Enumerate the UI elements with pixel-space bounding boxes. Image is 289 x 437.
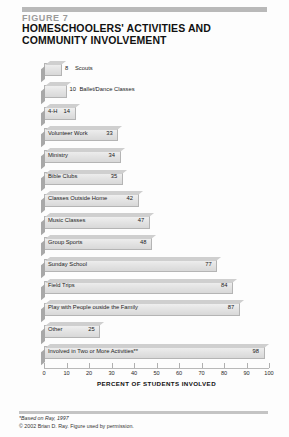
bar-label: Classes Outside Home [48,195,107,201]
x-axis-tick [269,363,270,368]
x-axis-tick-label: 30 [108,370,114,376]
bar-row: 4-H14 [44,104,269,126]
x-axis-tick-label: 0 [42,370,45,376]
bar-label: Music Classes [48,217,85,223]
x-axis-tick-label: 60 [176,370,182,376]
x-axis-tick-label: 80 [221,370,227,376]
x-axis-tick [202,363,203,368]
bar [44,63,62,76]
bar-row: Ministry34 [44,147,269,169]
x-axis-tick-label: 90 [243,370,249,376]
bar-row: Play with People ouside the Family87 [44,300,269,322]
bar-value: 84 [221,282,227,288]
bar-label: Ballet/Dance Classes [80,86,135,92]
bar-label: Other [48,326,63,332]
bar-row: Group Sports48 [44,234,269,256]
bar-label: 4-H [48,108,57,114]
bar-value: 77 [205,261,211,267]
bar-label: Bible Clubs [48,173,77,179]
bar-row: Bible Clubs35 [44,169,269,191]
bar-value: 34 [109,152,115,158]
x-axis-line [44,368,269,369]
x-axis-tick [224,363,225,368]
x-axis-tick [44,363,45,368]
bar-label: Play with People ouside the Family [48,304,138,310]
bar-row: Music Classes47 [44,213,269,235]
x-axis-tick [112,363,113,368]
bar [44,85,67,98]
bar-row: Classes Outside Home42 [44,191,269,213]
bar-value: 98 [253,348,259,354]
figure-title: HOMESCHOOLERS' ACTIVITIES AND COMMUNITY … [22,23,272,46]
x-axis-tick [67,363,68,368]
x-axis-tick [247,363,248,368]
bar-label: Ministry [48,152,68,158]
bar-row: Sunday School77 [44,256,269,278]
bar-value: 25 [88,326,94,332]
x-axis-tick-label: 50 [153,370,159,376]
x-axis-tick-label: 20 [86,370,92,376]
bar-value: 8 [65,65,68,71]
bar-value: 10 [70,86,76,92]
bar-value: 14 [64,108,70,114]
x-axis: PERCENT OF STUDENTS INVOLVED 01020304050… [44,368,269,398]
bar-value: 48 [140,239,146,245]
x-axis-tick-label: 100 [264,370,273,376]
x-axis-tick-label: 10 [63,370,69,376]
x-axis-tick [134,363,135,368]
bar-value: 47 [138,217,144,223]
x-axis-tick [157,363,158,368]
bar-value: 33 [106,130,112,136]
x-axis-tick [179,363,180,368]
figure-container: FIGURE 7 HOMESCHOOLERS' ACTIVITIES AND C… [0,0,289,437]
bar-row: Involved in Two or More Activities**98 [44,343,269,365]
x-axis-tick [89,363,90,368]
bar-value: 87 [228,304,234,310]
bar-label: Scouts [75,65,93,71]
bar-label: Sunday School [48,261,87,267]
bar-row: Field Trips84 [44,278,269,300]
bar-row: Scouts8 [44,60,269,82]
chart-plot-area: Scouts8Ballet/Dance Classes104-H14Volunt… [44,60,269,365]
bar-label: Field Trips [48,282,75,288]
x-axis-tick-label: 70 [198,370,204,376]
bar-row: Ballet/Dance Classes10 [44,82,269,104]
bar-label: Involved in Two or More Activities** [48,348,138,354]
bar-value: 42 [127,195,133,201]
x-axis-title: PERCENT OF STUDENTS INVOLVED [44,380,269,387]
bar-label: Group Sports [48,239,82,245]
header-rule [22,7,267,12]
bar-label: Volunteer Work [48,130,88,136]
footnote-copyright: © 2002 Brian D. Ray. Figure used by perm… [19,423,134,429]
footer-rule [19,411,268,414]
bar-value: 35 [111,173,117,179]
footnote-source: *Based on Ray, 1997 [19,415,69,421]
bar-row: Other25 [44,322,269,344]
x-axis-tick-label: 40 [131,370,137,376]
bar-row: Volunteer Work33 [44,125,269,147]
